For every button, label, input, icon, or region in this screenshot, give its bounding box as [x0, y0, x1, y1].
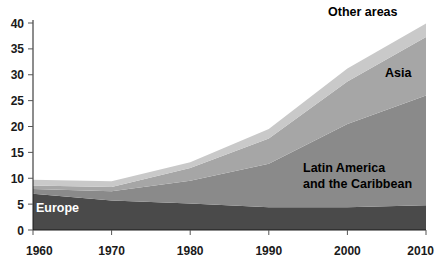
x-tick-label: 1980: [177, 244, 204, 258]
series-annotation-latin-america: Latin America: [303, 161, 386, 175]
x-tick-label: 2010: [407, 244, 434, 258]
y-tick-label: 40: [11, 17, 25, 31]
series-annotation-asia: Asia: [385, 66, 412, 80]
y-tick-label: 25: [11, 94, 25, 108]
y-tick-label: 15: [11, 146, 25, 160]
series-annotation-europe: Europe: [36, 201, 79, 215]
y-tick-label: 35: [11, 42, 25, 56]
series-annotation-other-areas: Other areas: [328, 5, 398, 19]
y-tick-label: 5: [17, 198, 24, 212]
series-annotation-and-the-caribbean: and the Caribbean: [303, 177, 412, 191]
chart-canvas: 0510152025303540 19601970198019902000201…: [0, 0, 439, 271]
y-tick-label: 10: [11, 172, 25, 186]
y-tick-label: 20: [11, 120, 25, 134]
y-tick-label: 0: [17, 224, 24, 238]
x-tick-label: 1970: [98, 244, 125, 258]
x-tick-label: 1990: [255, 244, 282, 258]
y-tick-label: 30: [11, 68, 25, 82]
x-tick-label: 2000: [334, 244, 361, 258]
stacked-area-chart: 0510152025303540 19601970198019902000201…: [0, 0, 439, 271]
x-tick-label: 1960: [26, 244, 53, 258]
